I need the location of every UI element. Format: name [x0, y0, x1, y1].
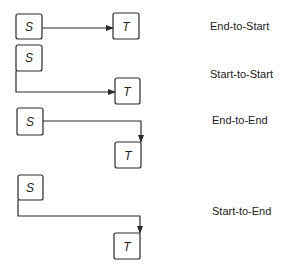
source-label: S [25, 20, 33, 34]
target-label: T [123, 85, 132, 99]
target-label: T [122, 20, 131, 34]
target-label: T [124, 149, 133, 163]
end-to-start-diagram [16, 13, 139, 39]
arrow [18, 200, 140, 233]
start-to-end-label: Start-to-End [212, 205, 271, 217]
source-label: S [25, 51, 33, 65]
source-label: S [26, 115, 34, 129]
source-label: S [26, 181, 34, 195]
dependency-diagram: S T S T S T S T [0, 0, 291, 270]
start-to-end-diagram [18, 175, 140, 259]
arrow [43, 121, 141, 142]
target-label: T [123, 240, 132, 254]
start-to-start-label: Start-to-Start [210, 68, 273, 80]
end-to-start-label: End-to-Start [210, 20, 269, 32]
end-to-end-label: End-to-End [212, 114, 268, 126]
start-to-start-diagram [16, 45, 140, 104]
arrow [16, 71, 115, 92]
end-to-end-diagram [17, 108, 141, 168]
